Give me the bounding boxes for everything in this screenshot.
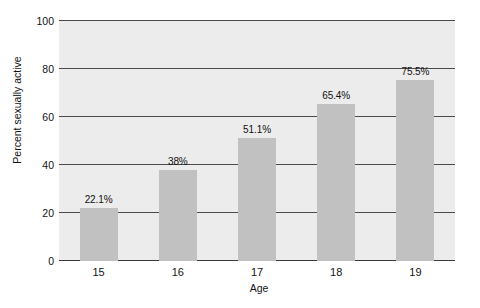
x-axis-title: Age [0,282,480,294]
bar-value-label-15: 22.1% [69,194,129,205]
y-axis-title: Percent sexually active [11,30,23,190]
x-tick-label-18: 18 [311,266,361,278]
bar-age-17 [238,138,276,261]
bar-age-18 [317,104,355,261]
x-tick-label-16: 16 [153,266,203,278]
x-tick-label-17: 17 [232,266,282,278]
bar-value-label-17: 51.1% [227,124,287,135]
bar-value-label-16: 38% [148,156,208,167]
bar-age-19 [396,80,434,261]
bar-value-label-18: 65.4% [306,90,366,101]
x-tick-label-19: 19 [390,266,440,278]
y-tick-label-80: 80 [28,64,54,74]
y-axis-ticks: 020406080100 [24,21,54,261]
gridline-100 [59,20,455,21]
y-tick-label-100: 100 [28,16,54,26]
x-axis-title-label: Age [250,282,269,294]
bar-chart-figure: 020406080100 Percent sexually active 22.… [0,0,480,308]
y-tick-label-0: 0 [28,256,54,266]
y-tick-label-60: 60 [28,112,54,122]
x-tick-label-15: 15 [74,266,124,278]
plot-area: 22.1%38%51.1%65.4%75.5% [59,21,455,261]
bar-value-label-19: 75.5% [385,66,445,77]
bar-age-15 [80,208,118,261]
bar-age-16 [159,170,197,261]
y-tick-label-40: 40 [28,160,54,170]
y-tick-label-20: 20 [28,208,54,218]
